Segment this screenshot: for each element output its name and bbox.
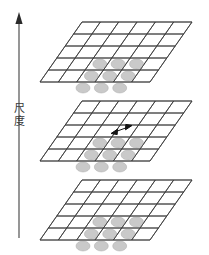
dot	[113, 83, 127, 93]
dot	[94, 83, 108, 93]
dot	[76, 241, 90, 251]
dot	[113, 241, 127, 251]
scale-axis-label: 尺 度	[11, 102, 27, 128]
figure-background	[0, 0, 209, 255]
scale-axis-label-char-1: 尺	[11, 102, 27, 115]
dot	[113, 162, 127, 172]
dot	[94, 241, 108, 251]
scale-axis-label-char-2: 度	[11, 115, 27, 128]
multiscale-grid-planes-diagram	[0, 0, 209, 255]
dot	[76, 83, 90, 93]
dot	[94, 162, 108, 172]
dot	[76, 162, 90, 172]
